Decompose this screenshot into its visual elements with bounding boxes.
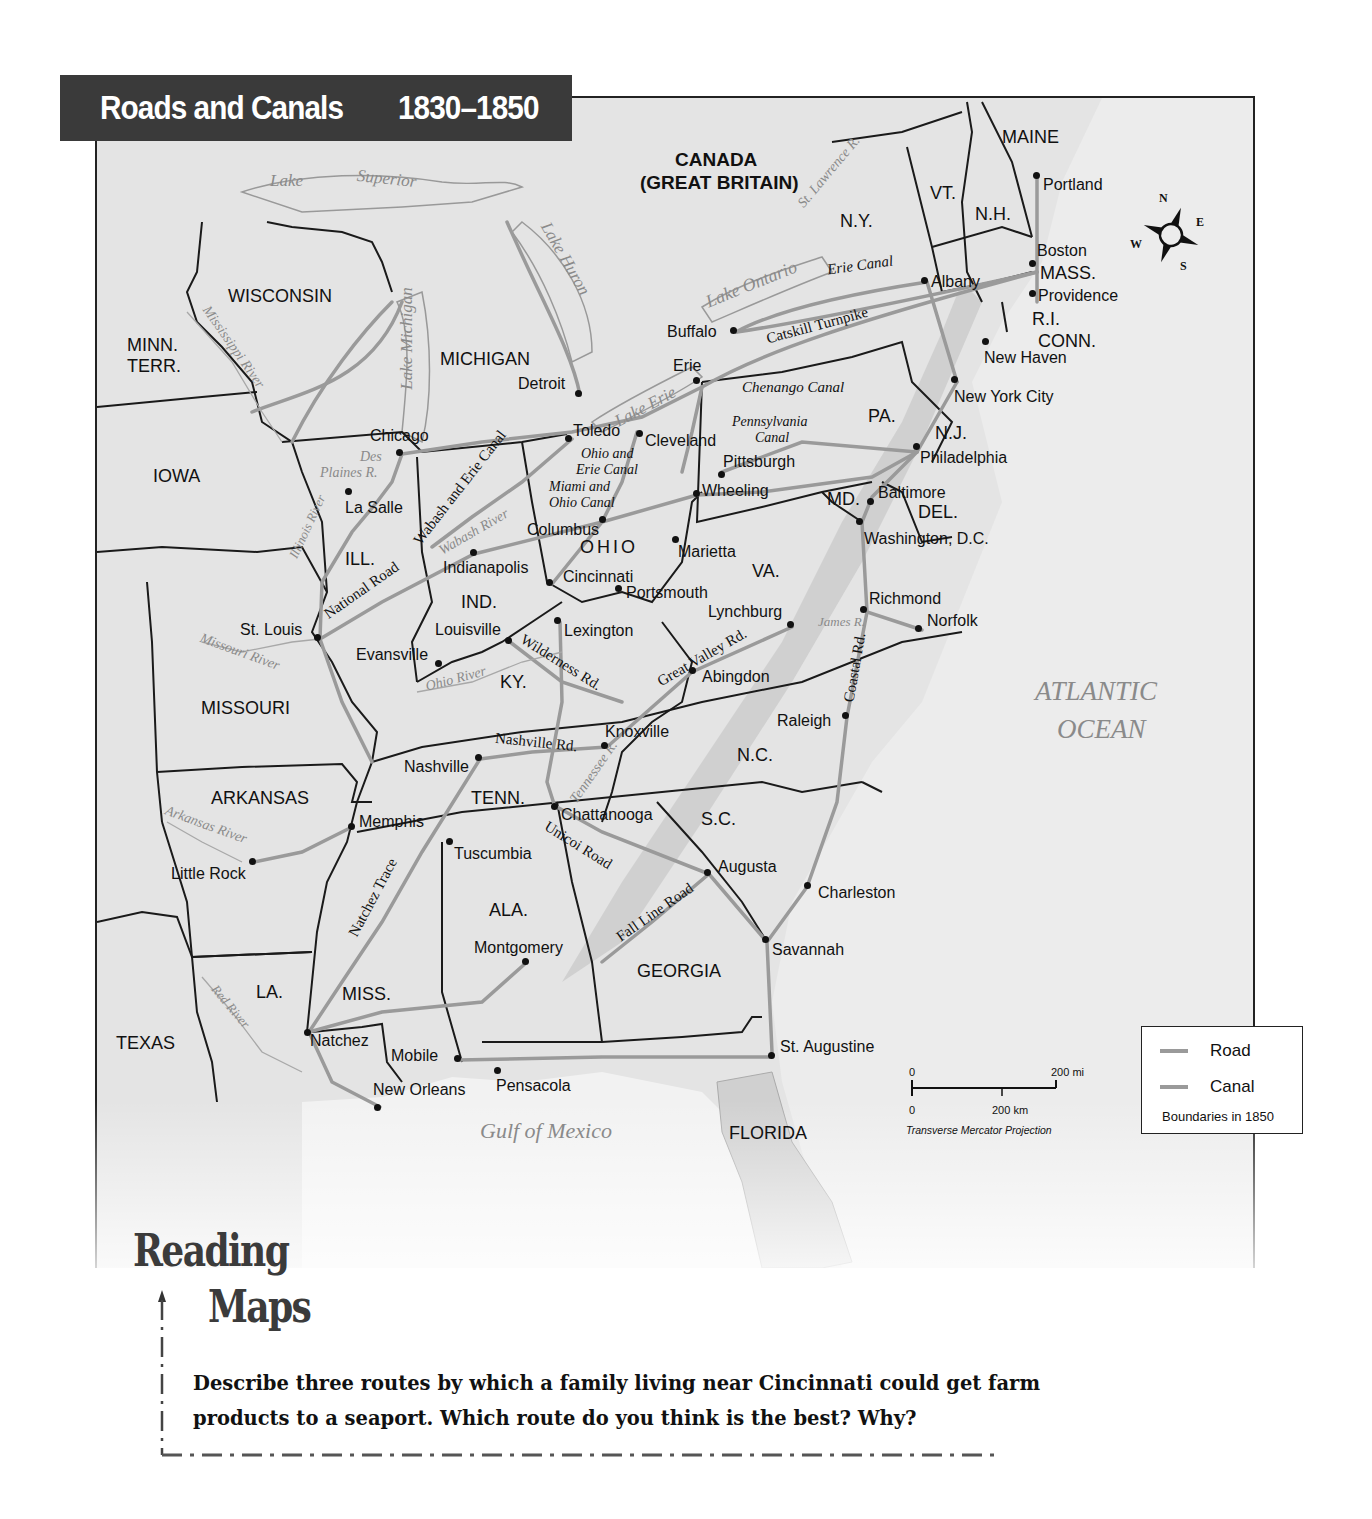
- city-la-salle: La Salle: [345, 500, 403, 516]
- city-baltimore: Baltimore: [878, 485, 946, 501]
- water-lake-michigan: Lake Michigan: [398, 287, 415, 389]
- city-pensacola: Pensacola: [496, 1078, 571, 1094]
- city-albany: Albany: [931, 274, 980, 290]
- city-pittsburgh: Pittsburgh: [723, 454, 795, 470]
- compass-icon: [1126, 190, 1216, 280]
- scale-200-km: 200 km: [992, 1104, 1028, 1116]
- region-pa: PA.: [868, 407, 896, 425]
- city-dot-knoxville: [601, 742, 608, 749]
- city-boston: Boston: [1037, 243, 1087, 259]
- legend-road-label: Road: [1210, 1041, 1251, 1061]
- water-atlantic-1: ATLANTIC: [1035, 678, 1157, 705]
- region-vt: VT.: [930, 184, 956, 202]
- city-dot-cincinnati: [546, 579, 553, 586]
- city-nashville: Nashville: [404, 759, 469, 775]
- city-dot-buffalo: [730, 327, 737, 334]
- region-md: MD.: [827, 490, 860, 508]
- region-conn: CONN.: [1038, 332, 1096, 350]
- region-nc: N.C.: [737, 746, 773, 764]
- city-memphis: Memphis: [359, 814, 424, 830]
- city-dot-portsmouth: [615, 585, 622, 592]
- compass-e: E: [1196, 216, 1204, 228]
- city-new-york: New York City: [954, 389, 1054, 405]
- city-abingdon: Abingdon: [702, 669, 770, 685]
- city-dot-augusta: [704, 869, 711, 876]
- map-title-years: 1830–1850: [398, 89, 539, 127]
- city-natchez: Natchez: [310, 1033, 369, 1049]
- route-ohio-erie-canal-2: Erie Canal: [576, 463, 638, 477]
- city-dot-portland: [1033, 172, 1040, 179]
- region-tenn: TENN.: [471, 789, 525, 807]
- city-dot-abingdon: [689, 667, 696, 674]
- scale-zero-km: 0: [909, 1104, 915, 1116]
- map-title-bar: Roads and Canals 1830–1850: [60, 75, 572, 141]
- city-dot-marietta: [672, 536, 679, 543]
- city-louisville: Louisville: [435, 622, 501, 638]
- city-dot-lynchburg: [787, 621, 794, 628]
- route-miami-ohio-canal-1: Miami and: [549, 480, 610, 494]
- city-dot-st-augustine: [768, 1052, 775, 1059]
- compass-w: W: [1130, 238, 1142, 250]
- compass-n: N: [1159, 192, 1168, 204]
- route-pennsylvania-canal-1: Pennsylvania: [732, 415, 807, 429]
- city-dot-louisville: [505, 637, 512, 644]
- city-mobile: Mobile: [391, 1048, 438, 1064]
- water-james: James R.: [818, 615, 865, 628]
- region-ri: R.I.: [1032, 310, 1060, 328]
- route-miami-ohio-canal-2: Ohio Canal: [549, 496, 615, 510]
- city-dot-columbus: [599, 516, 606, 523]
- city-dot-boston: [1029, 260, 1036, 267]
- city-dot-providence: [1029, 290, 1036, 297]
- city-buffalo: Buffalo: [667, 324, 717, 340]
- city-indianapolis: Indianapolis: [443, 560, 528, 576]
- city-charleston: Charleston: [818, 885, 895, 901]
- city-dot-norfolk: [915, 625, 922, 632]
- city-montgomery: Montgomery: [474, 940, 563, 956]
- city-dot-montgomery: [522, 958, 529, 965]
- map-title: Roads and Canals: [100, 89, 343, 127]
- region-miss: MISS.: [342, 985, 391, 1003]
- city-chicago: Chicago: [370, 428, 429, 444]
- city-tuscumbia: Tuscumbia: [454, 846, 532, 862]
- water-gulf-of-mexico: Gulf of Mexico: [480, 1120, 612, 1142]
- city-dot-toledo: [565, 435, 572, 442]
- region-texas: TEXAS: [116, 1034, 175, 1052]
- city-dot-chicago: [396, 449, 403, 456]
- reading-maps-line1: Reading: [133, 1225, 288, 1276]
- legend-canal-swatch: [1160, 1085, 1188, 1089]
- city-new-orleans: New Orleans: [373, 1082, 465, 1098]
- city-dot-pensacola: [494, 1067, 501, 1074]
- region-ala: ALA.: [489, 901, 528, 919]
- legend-road-swatch: [1160, 1049, 1188, 1053]
- city-cincinnati: Cincinnati: [563, 569, 633, 585]
- city-dot-philadelphia: [913, 443, 920, 450]
- legend-canal-label: Canal: [1210, 1077, 1254, 1097]
- water-lake-superior-1: Lake: [270, 172, 303, 189]
- water-des-plaines-2: Plaines R.: [320, 466, 378, 480]
- region-missouri: MISSOURI: [201, 699, 290, 717]
- city-dot-la-salle: [345, 488, 352, 495]
- region-georgia: GEORGIA: [637, 962, 721, 980]
- map-projection: Transverse Mercator Projection: [906, 1124, 1052, 1136]
- compass-s: S: [1180, 260, 1187, 272]
- city-dot-st-louis: [314, 634, 321, 641]
- city-chattanooga: Chattanooga: [561, 807, 653, 823]
- city-providence: Providence: [1038, 288, 1118, 304]
- city-dot-pittsburgh: [718, 471, 725, 478]
- city-dot-detroit: [575, 390, 582, 397]
- route-ohio-erie-canal-1: Ohio and: [581, 447, 634, 461]
- city-dot-new-haven: [982, 338, 989, 345]
- region-ky: KY.: [500, 673, 527, 691]
- region-ny: N.Y.: [840, 212, 873, 230]
- city-savannah: Savannah: [772, 942, 844, 958]
- city-dot-baltimore: [867, 498, 874, 505]
- city-dot-mobile: [454, 1055, 461, 1062]
- map-legend: Road Canal Boundaries in 1850: [1141, 1026, 1303, 1134]
- region-la: LA.: [256, 983, 283, 1001]
- scale-bar: 0 200 mi 0 200 km Transverse Mercator Pr…: [905, 1066, 1095, 1138]
- city-dot-washington: [856, 518, 863, 525]
- city-cleveland: Cleveland: [645, 433, 716, 449]
- region-ill: ILL.: [345, 550, 375, 568]
- region-minn: MINN.: [127, 336, 178, 354]
- legend-road: Road: [1160, 1041, 1251, 1061]
